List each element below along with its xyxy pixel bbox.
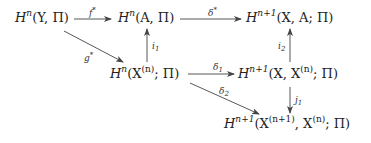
- label-i2: i2: [278, 42, 285, 53]
- label-delta1: δ1: [213, 63, 223, 74]
- arrow-g-star: [64, 31, 123, 62]
- node-hn-a-pi: Hn(A, Π): [118, 11, 174, 24]
- label-g-star: g*: [84, 52, 93, 63]
- node-hn1-x-xn-pi: Hn+1(X, X(n); Π): [238, 67, 338, 80]
- label-i1: i1: [152, 42, 159, 53]
- node-hn1-x-a-pi: Hn+1(X, A; Π): [246, 11, 333, 24]
- label-j1: j1: [295, 96, 302, 107]
- node-hn1-xn1-xn-pi: Hn+1(X(n+1), X(n); Π): [224, 117, 350, 130]
- node-hn-xn-pi: Hn(X(n); Π): [110, 67, 179, 80]
- label-f-star: f*: [89, 7, 96, 18]
- label-delta-star: δ*: [208, 7, 217, 18]
- node-hn-y-pi: Hn(Y, Π): [15, 11, 69, 24]
- label-delta2: δ2: [219, 87, 229, 98]
